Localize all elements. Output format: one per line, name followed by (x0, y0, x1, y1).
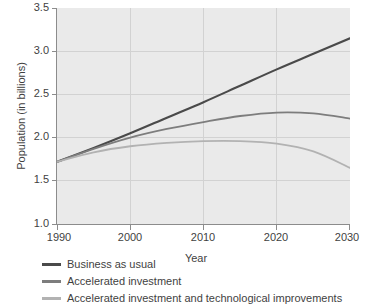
legend-item-business-as-usual[interactable]: Business as usual (42, 256, 372, 273)
x-tick-mark (57, 225, 58, 230)
x-tick-mark (349, 225, 350, 230)
y-tick-label-1-0: 1.0 (34, 218, 49, 229)
y-tick-mark (52, 51, 57, 52)
y-tick-mark (52, 137, 57, 138)
x-tick-label-1990: 1990 (47, 231, 71, 243)
x-tick-label-2020: 2020 (264, 231, 288, 243)
y-tick-mark (52, 94, 57, 95)
chart-legend: Business as usual Accelerated investment… (42, 256, 372, 307)
x-tick-label-2000: 2000 (118, 231, 142, 243)
y-tick-label-1-5: 1.5 (34, 174, 49, 185)
legend-item-accelerated-investment-and-technological-improvements[interactable]: Accelerated investment and technological… (42, 290, 372, 307)
x-tick-label-2010: 2010 (191, 231, 215, 243)
vertical-gridlines (130, 8, 277, 224)
y-tick-mark (52, 8, 57, 9)
x-tick-label-2030: 2030 (335, 231, 359, 243)
y-tick-label-3-0: 3.0 (34, 45, 49, 56)
y-tick-label-3-5: 3.5 (34, 2, 49, 13)
plot-area (57, 8, 350, 224)
y-axis-title: Population (in billions) (14, 8, 28, 224)
legend-label: Accelerated investment (67, 275, 181, 288)
y-tick-label-2-0: 2.0 (34, 131, 49, 142)
legend-line-icon (42, 297, 61, 300)
y-axis-line (56, 8, 57, 225)
legend-label: Accelerated investment and technological… (67, 292, 342, 305)
y-tick-label-2-5: 2.5 (34, 88, 49, 99)
legend-line-icon (42, 263, 61, 266)
legend-item-accelerated-investment[interactable]: Accelerated investment (42, 273, 372, 290)
y-tick-mark (52, 180, 57, 181)
x-tick-mark (130, 225, 131, 230)
x-tick-mark (276, 225, 277, 230)
x-tick-mark (203, 225, 204, 230)
legend-line-icon (42, 280, 61, 283)
legend-label: Business as usual (67, 258, 156, 271)
plot-canvas (57, 8, 350, 224)
